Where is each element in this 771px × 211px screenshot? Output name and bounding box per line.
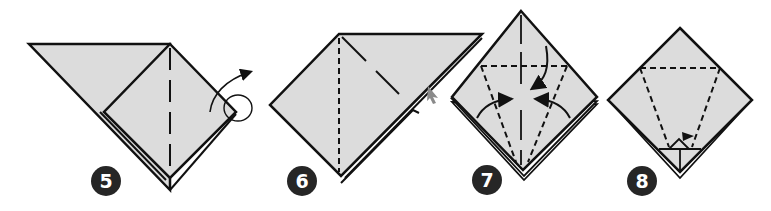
step-6-badge: 6 — [287, 166, 317, 196]
step-5-badge: 5 — [91, 166, 121, 196]
step-7-badge: 7 — [472, 165, 502, 195]
origami-diagram: 5 6 7 8 — [0, 0, 771, 211]
step-6-figure — [270, 34, 482, 183]
step-5-figure — [29, 44, 252, 190]
step-8-figure — [608, 28, 752, 178]
step-8-badge: 8 — [627, 166, 657, 196]
